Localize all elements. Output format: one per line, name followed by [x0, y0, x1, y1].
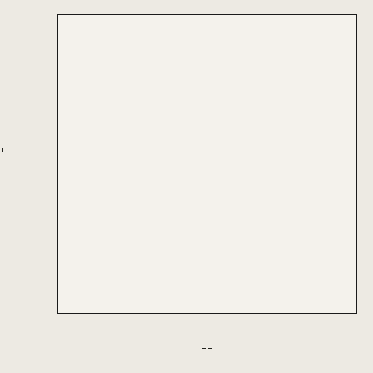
x-axis-fraction-2 — [208, 348, 212, 349]
x-axis-title — [57, 344, 357, 353]
curves-layer — [58, 15, 356, 313]
x-axis-fraction-1 — [202, 348, 206, 349]
y-axis-title — [0, 148, 8, 152]
plot-area[interactable] — [57, 14, 357, 314]
y-axis-fraction — [2, 148, 3, 152]
chart-page — [0, 0, 373, 373]
